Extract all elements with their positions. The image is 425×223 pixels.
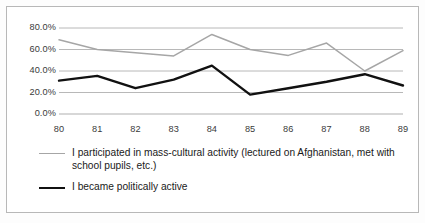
chart-legend: I participated in mass-cultural activity… [7,147,418,203]
y-axis-tick-label: 40.0% [29,66,56,75]
x-axis-tick-label: 87 [321,125,331,134]
x-axis-tick-label: 80 [54,125,64,134]
x-axis-tick-label: 85 [245,125,255,134]
x-axis-tick-label: 88 [360,125,370,134]
x-axis-tick-label: 82 [130,125,140,134]
legend-item-participated: I participated in mass-cultural activity… [7,147,418,172]
chart-container: 80.0%60.0%40.0%20.0%0.0% 808182838485868… [6,6,419,213]
y-axis-tick-label: 20.0% [29,88,56,97]
y-axis-labels: 80.0%60.0%40.0%20.0%0.0% [7,7,59,139]
legend-label-participated: I participated in mass-cultural activity… [72,147,402,172]
x-axis-labels: 80818283848586878889 [7,125,418,143]
x-axis-tick-label: 84 [207,125,217,134]
x-axis-tick-label: 81 [92,125,102,134]
plot-area: 80.0%60.0%40.0%20.0%0.0% [7,7,418,139]
legend-item-politically-active: I became politically active [7,181,418,194]
y-axis-tick-label: 60.0% [29,45,56,54]
y-axis-tick-label: 0.0% [35,109,56,118]
series-line-1 [59,66,403,95]
data-series [59,34,403,94]
gridlines [59,28,403,114]
x-axis-tick-label: 83 [168,125,178,134]
x-axis-tick-label: 89 [398,125,408,134]
legend-label-politically-active: I became politically active [72,181,188,194]
line-marker-gray-icon [39,153,65,154]
chart-screenshot: 80.0%60.0%40.0%20.0%0.0% 808182838485868… [0,0,425,223]
x-axis-tick-label: 86 [283,125,293,134]
chart-svg [7,7,418,139]
line-marker-black-icon [39,187,65,189]
y-axis-tick-label: 80.0% [29,23,56,32]
series-line-0 [59,34,403,71]
